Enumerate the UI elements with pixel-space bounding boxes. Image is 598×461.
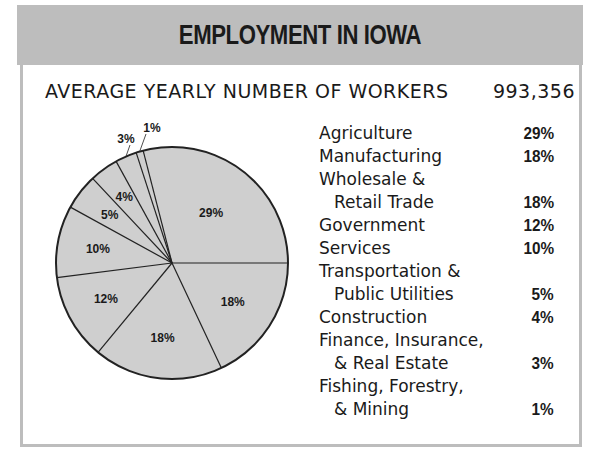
slice-label: 29% xyxy=(199,206,223,220)
slice-label: 1% xyxy=(143,121,161,135)
legend-label: Finance, Insurance, xyxy=(319,329,484,352)
leader-line xyxy=(140,134,146,152)
slice-label: 4% xyxy=(116,190,134,204)
legend-label: Manufacturing xyxy=(319,145,442,168)
legend-row: Wholesale & xyxy=(319,168,554,191)
legend-row: Government12% xyxy=(319,214,554,237)
legend-value: 10% xyxy=(523,237,554,260)
legend-label: Services xyxy=(319,237,391,260)
legend-value: 18% xyxy=(523,145,554,168)
legend-label: Agriculture xyxy=(319,122,413,145)
legend-value: 5% xyxy=(532,283,554,306)
legend-value: 4% xyxy=(532,306,554,329)
legend-label: & Mining xyxy=(334,398,409,421)
slice-label: 18% xyxy=(221,295,245,309)
legend-value: 18% xyxy=(523,191,554,214)
legend-row: & Real Estate3% xyxy=(319,352,554,375)
legend-row: Construction4% xyxy=(319,306,554,329)
legend-label: Public Utilities xyxy=(334,283,454,306)
slice-label: 10% xyxy=(86,242,110,256)
legend-row: Retail Trade18% xyxy=(319,191,554,214)
legend-label: Fishing, Forestry, xyxy=(319,375,464,398)
legend-label: Wholesale & xyxy=(319,168,425,191)
legend-value: 1% xyxy=(532,398,554,421)
legend: Agriculture29%Manufacturing18%Wholesale … xyxy=(319,122,554,421)
slice-label: 3% xyxy=(117,132,135,146)
legend-row: Agriculture29% xyxy=(319,122,554,145)
slice-label: 12% xyxy=(94,292,118,306)
legend-row: Services10% xyxy=(319,237,554,260)
legend-label: Retail Trade xyxy=(334,191,434,214)
legend-row: & Mining1% xyxy=(319,398,554,421)
slice-label: 5% xyxy=(101,208,119,222)
legend-value: 29% xyxy=(523,122,554,145)
legend-row: Transportation & xyxy=(319,260,554,283)
legend-value: 3% xyxy=(532,352,554,375)
legend-label: & Real Estate xyxy=(334,352,449,375)
slice-label: 18% xyxy=(151,331,175,345)
legend-label: Transportation & xyxy=(319,260,460,283)
legend-label: Construction xyxy=(319,306,427,329)
legend-label: Government xyxy=(319,214,425,237)
legend-row: Manufacturing18% xyxy=(319,145,554,168)
legend-row: Fishing, Forestry, xyxy=(319,375,554,398)
legend-row: Finance, Insurance, xyxy=(319,329,554,352)
legend-value: 12% xyxy=(523,214,554,237)
legend-row: Public Utilities5% xyxy=(319,283,554,306)
